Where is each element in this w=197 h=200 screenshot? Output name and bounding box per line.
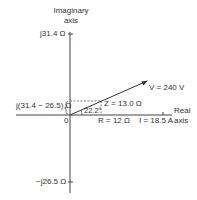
origin-label: 0 <box>64 116 68 125</box>
angle-arc <box>81 110 82 115</box>
resistance-label: R = 12 Ω <box>98 116 130 125</box>
impedance-label: Z = 13.0 Ω <box>104 99 142 108</box>
imaginary-axis-label-line2: axis <box>46 16 96 25</box>
tick-label-net-reactance: j(31.4 − 26.5) Ω <box>16 101 72 110</box>
current-label: I = 18.5 A <box>139 116 173 125</box>
angle-label: 22.2° <box>84 106 102 115</box>
imaginary-axis-label-line1: Imaginary <box>46 6 96 15</box>
tick-label-top: j31.4 Ω <box>40 29 66 38</box>
arrow-head-icon <box>142 81 149 86</box>
real-axis-label-line2: axis <box>174 116 188 125</box>
real-axis-label-line1: Real <box>174 106 190 115</box>
tick-label-bottom: −j26.5 Ω <box>36 177 66 186</box>
voltage-label: V = 240 V <box>149 83 184 92</box>
phasor-diagram <box>0 0 197 200</box>
